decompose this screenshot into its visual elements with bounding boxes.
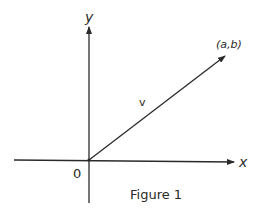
y-axis-label: y <box>84 9 94 25</box>
figure-caption: Figure 1 <box>130 187 182 202</box>
origin-point <box>87 158 90 161</box>
x-axis-label: x <box>238 154 248 170</box>
origin-label: 0 <box>73 166 81 181</box>
vector-label: v <box>139 96 146 109</box>
vector-v <box>89 56 225 160</box>
x-axis <box>14 160 234 162</box>
point-label: (a,b) <box>216 38 242 51</box>
vector-diagram: y x 0 v (a,b) Figure 1 <box>0 0 261 221</box>
